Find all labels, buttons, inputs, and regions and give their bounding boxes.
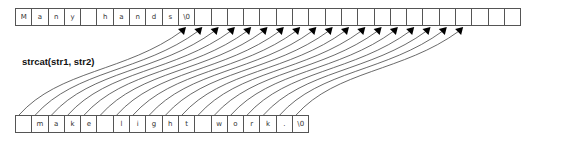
str1-cell	[504, 8, 521, 26]
arrow-curve	[68, 31, 231, 115]
arrowhead-icon	[455, 27, 463, 35]
arrow-curve	[35, 31, 198, 115]
str1-cell: d	[145, 8, 162, 26]
arrowhead-icon	[178, 27, 186, 35]
arrowhead-icon	[423, 27, 431, 35]
arrowhead-icon	[325, 27, 333, 35]
arrowhead-icon	[308, 27, 316, 35]
arrowhead-icon	[292, 27, 300, 35]
str2-cell: t	[178, 115, 195, 133]
str1-cell	[406, 8, 423, 26]
str1-cell	[439, 8, 456, 26]
arrowhead-icon	[357, 27, 365, 35]
str2-cell: m	[31, 115, 48, 133]
str1-cell	[455, 8, 472, 26]
str2-cell	[96, 115, 113, 133]
str1-cell	[357, 8, 374, 26]
arrowhead-icon	[341, 27, 349, 35]
arrow-curve	[231, 31, 394, 115]
str2-buffer: makelightwork.\0	[15, 115, 308, 133]
str2-cell: r	[243, 115, 260, 133]
str1-cell	[374, 8, 391, 26]
str1-cell	[488, 8, 505, 26]
arrow-curve	[264, 31, 427, 115]
str1-cell: a	[31, 8, 48, 26]
str2-cell: i	[129, 115, 146, 133]
str1-cell	[259, 8, 276, 26]
arrowhead-icon	[390, 27, 398, 35]
str1-cell	[194, 8, 211, 26]
arrowhead-icon	[194, 27, 202, 35]
str1-cell: s	[162, 8, 179, 26]
str1-cell: \0	[178, 8, 195, 26]
arrow-curve	[117, 31, 280, 115]
str1-cell	[243, 8, 260, 26]
arrow-curve	[198, 31, 361, 115]
arrowhead-icon	[227, 27, 235, 35]
arrow-curve	[182, 31, 345, 115]
str2-cell: w	[211, 115, 228, 133]
str1-cell: n	[129, 8, 146, 26]
str1-cell	[308, 8, 325, 26]
str1-cell: h	[96, 8, 113, 26]
str1-cell	[341, 8, 358, 26]
str1-cell	[471, 8, 488, 26]
arrow-curve	[280, 31, 443, 115]
str2-cell: k	[64, 115, 81, 133]
arrow-curve	[215, 31, 378, 115]
str1-cell: M	[15, 8, 32, 26]
str1-cell: y	[64, 8, 81, 26]
arrowhead-icon	[243, 27, 251, 35]
str1-cell	[227, 8, 244, 26]
str1-cell	[422, 8, 439, 26]
str2-cell	[15, 115, 32, 133]
str1-cell	[390, 8, 407, 26]
str2-cell	[194, 115, 211, 133]
str2-cell: e	[80, 115, 97, 133]
arrow-curve	[101, 31, 264, 115]
arrow-curve	[84, 31, 247, 115]
function-call-label: strcat(str1, str2)	[22, 56, 94, 67]
str2-cell: l	[113, 115, 130, 133]
str1-cell	[276, 8, 293, 26]
str1-cell	[80, 8, 97, 26]
arrow-curve	[296, 31, 459, 115]
str2-cell: h	[162, 115, 179, 133]
str2-cell: g	[145, 115, 162, 133]
str1-buffer: Manyhands\0	[15, 8, 520, 26]
str2-cell: a	[48, 115, 65, 133]
arrowhead-icon	[406, 27, 414, 35]
arrow-curve	[133, 31, 296, 115]
arrowhead-icon	[374, 27, 382, 35]
str1-cell	[211, 8, 228, 26]
arrowhead-icon	[211, 27, 219, 35]
str2-cell: \0	[292, 115, 309, 133]
str1-cell	[325, 8, 342, 26]
arrow-curve	[149, 31, 312, 115]
str1-cell: n	[48, 8, 65, 26]
arrowhead-icon	[260, 27, 268, 35]
arrow-curve	[52, 31, 215, 115]
str2-cell: .	[276, 115, 293, 133]
arrow-curve	[19, 31, 182, 115]
arrowhead-icon	[439, 27, 447, 35]
str1-cell	[292, 8, 309, 26]
arrow-curve	[166, 31, 329, 115]
str2-cell: o	[227, 115, 244, 133]
str1-cell: a	[113, 8, 130, 26]
arrow-curve	[247, 31, 410, 115]
arrowhead-icon	[276, 27, 284, 35]
str2-cell: k	[259, 115, 276, 133]
